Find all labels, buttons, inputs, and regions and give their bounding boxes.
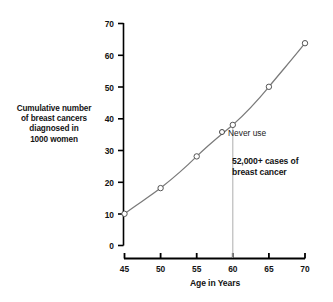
y-axis-title-line-3: diagnosed in [2, 124, 106, 134]
x-tick-label-55: 55 [185, 264, 209, 274]
data-point [158, 185, 163, 190]
data-point [194, 154, 199, 159]
y-axis-title-line-1: Cumulative number [2, 104, 106, 114]
y-tick-label-10: 10 [92, 210, 114, 220]
y-tick-label-70: 70 [92, 19, 114, 29]
x-tick-label-50: 50 [149, 264, 173, 274]
cases-annotation: 52,000+ cases of breast cancer [232, 156, 332, 178]
y-tick-label-30: 30 [92, 146, 114, 156]
y-axis-title-line-4: 1000 women [2, 135, 106, 145]
cases-annotation-line-1: 52,000+ cases of [232, 156, 332, 167]
x-tick-label-65: 65 [257, 264, 281, 274]
cases-annotation-line-2: breast cancer [232, 167, 332, 178]
data-point [302, 41, 307, 46]
x-axis [124, 253, 305, 259]
open-circle-icon [219, 129, 225, 135]
legend-label: Never use [228, 128, 266, 138]
chart-figure: 70 60 50 40 30 20 10 0 45 50 55 60 65 70… [0, 0, 333, 302]
series-never-use-line [125, 43, 306, 214]
y-tick-label-60: 60 [92, 51, 114, 61]
y-tick-label-50: 50 [92, 83, 114, 93]
x-axis-title: Age in Years [120, 278, 310, 288]
data-point [266, 84, 271, 89]
x-tick-label-70: 70 [293, 264, 317, 274]
legend-entry-never-use: Never use [219, 127, 266, 138]
data-point [122, 211, 127, 216]
y-tick-label-20: 20 [92, 178, 114, 188]
y-tick-label-0: 0 [92, 241, 114, 251]
x-tick-label-45: 45 [113, 264, 137, 274]
series-never-use-markers [122, 41, 308, 217]
y-axis-title: Cumulative number of breast cancers diag… [2, 104, 106, 145]
y-axis-title-line-2: of breast cancers [2, 114, 106, 124]
x-tick-label-60: 60 [221, 264, 245, 274]
line-chart-plot [0, 0, 333, 302]
